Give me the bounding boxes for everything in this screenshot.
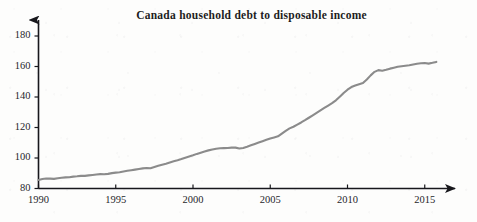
debt-to-income-line xyxy=(39,62,437,180)
y-tick-label: 100 xyxy=(0,151,31,162)
y-tick-label: 140 xyxy=(0,90,31,101)
x-tick-label: 2015 xyxy=(400,194,450,205)
x-tick-label: 2005 xyxy=(245,194,295,205)
chart-figure: Canada household debt to disposable inco… xyxy=(0,0,477,222)
y-tick-label: 160 xyxy=(0,60,31,71)
x-tick-label: 2010 xyxy=(323,194,373,205)
x-tick-label: 1995 xyxy=(91,194,141,205)
x-tick-label: 2000 xyxy=(168,194,218,205)
y-tick-label: 80 xyxy=(0,182,31,193)
plot-area xyxy=(0,0,477,222)
x-tick-label: 1990 xyxy=(14,194,64,205)
y-tick-label: 120 xyxy=(0,121,31,132)
y-tick-label: 180 xyxy=(0,29,31,40)
